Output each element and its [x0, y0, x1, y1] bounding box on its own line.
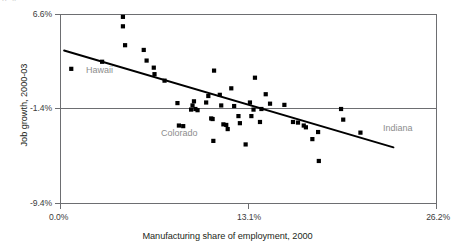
data-point [177, 123, 181, 127]
x-tick-label-min: 0.0% [49, 212, 89, 222]
data-point [238, 121, 242, 125]
data-point [192, 99, 196, 103]
annotation-hawaii: Hawaii [86, 65, 113, 75]
data-point [206, 94, 210, 98]
data-point [219, 103, 223, 107]
data-point [212, 69, 216, 73]
data-point [310, 137, 314, 141]
x-axis-title: Manufacturing share of employment, 2000 [0, 231, 455, 241]
data-point [175, 101, 179, 105]
data-point [282, 103, 286, 107]
data-point [296, 120, 300, 124]
data-point [291, 120, 295, 124]
data-point [123, 43, 127, 47]
data-point [317, 159, 321, 163]
data-point [204, 100, 208, 104]
y-axis-title: Job growth, 2000-03 [19, 25, 29, 185]
data-point [193, 107, 197, 111]
data-point [258, 120, 262, 124]
y-tick-label-top: 6.6% [14, 9, 52, 19]
data-point [152, 66, 156, 70]
data-point [152, 72, 156, 76]
data-point [264, 92, 268, 96]
data-point [244, 142, 248, 146]
data-point [253, 76, 257, 80]
data-point [358, 131, 362, 135]
y-tick-label-bottom: -9.4% [14, 198, 52, 208]
data-point [211, 139, 215, 143]
data-point [121, 24, 125, 28]
data-point [251, 107, 255, 111]
x-tick-label-max: 26.2% [408, 212, 450, 222]
scatter-chart: p. 4 6.6% -1.4% -9.4% 0.0% 13.1 [0, 0, 455, 249]
data-point [249, 114, 253, 118]
y-tick-marks [55, 15, 60, 204]
data-point [268, 102, 272, 106]
annotation-indiana: Indiana [383, 123, 413, 133]
data-point-layer [69, 15, 362, 163]
annotation-colorado: Colorado [161, 128, 198, 138]
x-tick-label-mid: 13.1% [229, 212, 269, 222]
data-point [211, 117, 215, 121]
data-point [145, 58, 149, 62]
data-point [229, 86, 233, 90]
data-point [316, 130, 320, 134]
data-point [121, 15, 125, 19]
data-point [226, 127, 230, 131]
data-point [236, 114, 240, 118]
data-point [304, 125, 308, 129]
data-point [224, 123, 228, 127]
trendline [64, 51, 393, 148]
data-point [69, 67, 73, 71]
data-point [339, 107, 343, 111]
data-point [142, 48, 146, 52]
data-point [232, 104, 236, 108]
data-point [341, 118, 345, 122]
data-point [189, 107, 193, 111]
